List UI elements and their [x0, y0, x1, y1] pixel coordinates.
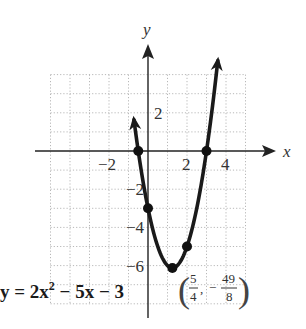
equation-rhs: − 5x − 3: [55, 281, 124, 302]
vertex-y-numerator: 49: [222, 271, 235, 286]
point-vertex: [167, 263, 177, 273]
vertex-y-sign: −: [209, 280, 216, 295]
equation-label: y = 2x2 − 5x − 3: [0, 279, 124, 302]
x-tick-label: 2: [182, 155, 191, 174]
y-axis-label: y: [141, 20, 151, 39]
y-tick-label: −4: [126, 218, 145, 237]
y-tick-label: −2: [126, 180, 144, 199]
y-tick-label: −6: [126, 257, 144, 276]
x-tick-label: −2: [98, 155, 116, 174]
x-axis-label: x: [282, 142, 291, 161]
parabola-graph: x y −2242−2−4−6 y = 2x2 − 5x − 3 ( 5 4 ,…: [0, 0, 306, 329]
x-tick-label: 4: [221, 155, 230, 174]
vertex-x-numerator: 5: [190, 271, 197, 286]
vertex-y-denominator: 8: [226, 289, 233, 304]
point-y-intercept: [143, 203, 153, 213]
equation-lhs: y = 2x: [0, 281, 49, 302]
parabola-curve: [134, 61, 218, 268]
point-point: [182, 242, 192, 252]
point-x-intercept: [202, 146, 212, 156]
vertex-comma: ,: [200, 281, 203, 296]
left-paren: (: [178, 270, 190, 310]
y-tick-label: 2: [154, 104, 163, 123]
point-x-intercept: [133, 146, 143, 156]
right-paren: ): [238, 270, 250, 310]
vertex-x-denominator: 4: [190, 289, 197, 304]
marked-points: [133, 146, 211, 273]
